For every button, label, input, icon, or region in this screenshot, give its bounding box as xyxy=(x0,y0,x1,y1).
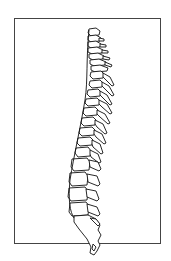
lumbar-vertebrae xyxy=(68,158,101,216)
spine-illustration xyxy=(0,0,171,261)
thoracic-vertebrae xyxy=(75,71,114,163)
sacrum-coccyx xyxy=(74,215,101,255)
cervical-vertebrae xyxy=(88,28,112,72)
